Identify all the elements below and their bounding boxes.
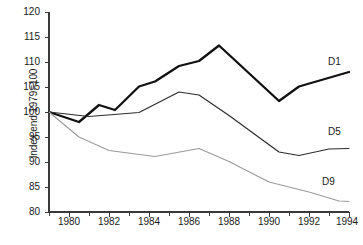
- axes: [45, 12, 349, 217]
- series-line-d1: [49, 46, 349, 123]
- series-lines: [49, 46, 349, 202]
- series-line-d5: [49, 92, 349, 156]
- series-line-d9: [49, 112, 349, 202]
